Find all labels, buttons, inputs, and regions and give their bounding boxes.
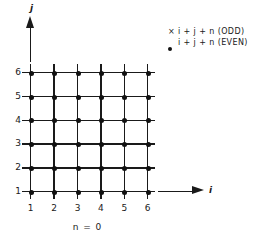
x-tick-label: 3 [72,204,84,213]
lattice-node-even [29,95,34,100]
lattice-node-even [29,190,34,195]
lattice-node-even [122,71,127,76]
y-tick-label: 6 [9,68,21,77]
lattice-node-even [99,95,104,100]
lattice-node-even [52,166,57,171]
y-tick-label: 1 [9,187,21,196]
gridline-horizontal [22,143,155,144]
lattice-node-even [29,71,34,76]
lattice-node-even [146,142,151,147]
lattice-node-even [52,190,57,195]
x-tick-label: 6 [142,204,154,213]
lattice-node-even [76,71,81,76]
lattice-node-even [122,166,127,171]
lattice-node-even [52,71,57,76]
lattice-node-even [146,71,151,76]
figure-caption: n = 0 [0,222,175,232]
x-tick-label: 2 [48,204,60,213]
lattice-node-even [99,142,104,147]
gridline-vertical [147,64,148,199]
y-tick-label: 5 [9,92,21,101]
gridline-vertical [100,64,101,199]
gridline-vertical [124,64,125,199]
lattice-node-even [76,95,81,100]
lattice-node-even [122,142,127,147]
gridline-horizontal [22,120,155,121]
y-tick-label: 2 [9,163,21,172]
x-tick-label: 4 [95,204,107,213]
x-tick-label: 5 [118,204,130,213]
lattice-node-even [99,71,104,76]
y-tick-label: 3 [9,139,21,148]
gridline-vertical [30,64,31,199]
lattice-node-even [76,118,81,123]
lattice-node-even [29,142,34,147]
y-tick-label: 4 [9,116,21,125]
gridline-horizontal [22,72,155,73]
lattice-node-even [76,142,81,147]
lattice-node-even [52,142,57,147]
lattice-node-even [146,166,151,171]
lattice-node-even [99,118,104,123]
lattice-node-even [122,95,127,100]
lattice-node-even [76,166,81,171]
lattice-node-even [76,190,81,195]
gridline-horizontal [22,167,155,168]
x-tick-label: 1 [25,204,37,213]
lattice-node-even [146,118,151,123]
gridline-horizontal [22,96,155,97]
lattice-node-even [52,95,57,100]
lattice-node-even [99,190,104,195]
lattice-node-even [122,118,127,123]
lattice-node-even [52,118,57,123]
lattice-node-even [122,190,127,195]
gridline-horizontal [22,191,155,192]
lattice-node-even [146,95,151,100]
gridline-vertical [53,64,54,199]
lattice-node-even [99,166,104,171]
lattice-node-even [29,118,34,123]
lattice-node-even [29,166,34,171]
lattice-node-even [146,190,151,195]
figure-canvas: × i + j + n (ODD) i + j + n (EVEN) j i 6… [0,0,265,248]
gridline-vertical [77,64,78,199]
lattice-grid: 654321123456 [0,0,265,248]
